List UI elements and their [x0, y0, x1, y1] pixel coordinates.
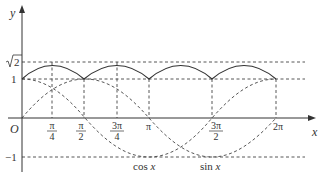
svg-text:π: π [78, 120, 83, 131]
cos-x-label: cos x [133, 160, 155, 172]
two-pi-label: 2π [273, 121, 283, 132]
one-label: 1 [11, 73, 17, 85]
svg-text:4: 4 [50, 131, 55, 142]
pi-label: π [146, 121, 151, 132]
svg-text:2: 2 [79, 131, 84, 142]
svg-text:4: 4 [115, 131, 120, 142]
abs-sum-curve [22, 66, 276, 80]
neg-one-label: −1 [5, 151, 17, 163]
origin-label: O [10, 122, 19, 136]
x-axis-arrow-icon [308, 115, 316, 121]
x-axis-label: x [311, 125, 318, 139]
pi-over-4-label: π 4 [47, 120, 57, 142]
trig-graph: y x O 2 1 −1 π 4 π 2 3π 4 π 3π 2 2π cos … [0, 0, 325, 181]
y-axis-label: y [9, 6, 16, 20]
svg-text:3π: 3π [211, 120, 221, 131]
svg-text:2: 2 [214, 131, 219, 142]
svg-text:π: π [49, 120, 54, 131]
y-axis-arrow-icon [19, 5, 25, 13]
svg-text:3π: 3π [112, 120, 122, 131]
three-pi-over-2-label: 3π 2 [209, 120, 223, 142]
sqrt2-label: 2 [6, 55, 22, 68]
three-pi-over-4-label: 3π 4 [110, 120, 124, 142]
pi-over-2-label: π 2 [76, 120, 86, 142]
svg-text:2: 2 [14, 56, 20, 68]
sin-x-label: sin x [200, 160, 221, 172]
